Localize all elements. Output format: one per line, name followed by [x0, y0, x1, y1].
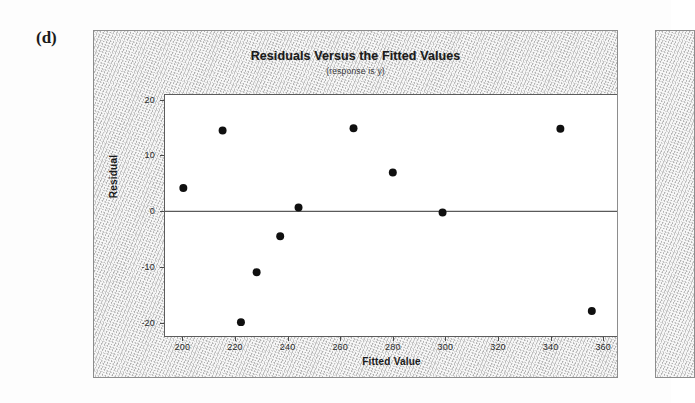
- residual-plot-panel: Residuals Versus the Fitted Values (resp…: [93, 30, 618, 378]
- y-tick-mark: [160, 100, 164, 101]
- plot-area: [164, 94, 618, 337]
- y-tick-label: 20: [145, 95, 155, 105]
- data-point: [276, 232, 284, 240]
- x-axis-title: Fitted Value: [164, 356, 618, 367]
- data-point: [588, 307, 596, 315]
- y-tick-mark: [160, 155, 164, 156]
- x-tick-label: 220: [227, 342, 243, 352]
- x-tick-label: 260: [332, 342, 348, 352]
- x-tick-label: 240: [280, 342, 296, 352]
- data-point: [556, 125, 564, 133]
- x-tick-label: 320: [490, 342, 506, 352]
- y-tick-label: 10: [145, 150, 155, 160]
- chart-subtitle: (response is y): [94, 66, 617, 76]
- x-tick-label: 300: [438, 342, 454, 352]
- data-point: [439, 208, 447, 216]
- y-tick-label: -10: [141, 262, 155, 272]
- figure-label: (d): [36, 28, 57, 48]
- x-tick-label: 340: [543, 342, 559, 352]
- y-tick-label: 0: [150, 206, 155, 216]
- x-tick-mark: [182, 337, 183, 341]
- data-point: [237, 318, 245, 326]
- x-tick-mark: [288, 337, 289, 341]
- x-tick-mark: [445, 337, 446, 341]
- x-tick-mark: [498, 337, 499, 341]
- y-axis-title: Residual: [108, 132, 119, 222]
- x-tick-mark: [340, 337, 341, 341]
- x-tick-mark: [393, 337, 394, 341]
- y-tick-mark: [160, 267, 164, 268]
- scatter-plot-svg: [165, 95, 618, 336]
- data-point: [295, 203, 303, 211]
- x-tick-mark: [235, 337, 236, 341]
- data-point: [219, 126, 227, 134]
- data-point: [179, 184, 187, 192]
- y-tick-label: -20: [141, 318, 155, 328]
- x-tick-label: 200: [175, 342, 191, 352]
- data-points-group: [179, 124, 595, 326]
- x-tick-mark: [603, 337, 604, 341]
- y-tick-mark: [160, 323, 164, 324]
- x-tick-label: 280: [385, 342, 401, 352]
- x-tick-mark: [551, 337, 552, 341]
- y-tick-mark: [160, 211, 164, 212]
- adjacent-panel-partial: [655, 30, 695, 378]
- data-point: [350, 124, 358, 132]
- x-tick-label: 360: [595, 342, 611, 352]
- data-point: [389, 169, 397, 177]
- chart-title: Residuals Versus the Fitted Values: [94, 49, 617, 63]
- data-point: [253, 268, 261, 276]
